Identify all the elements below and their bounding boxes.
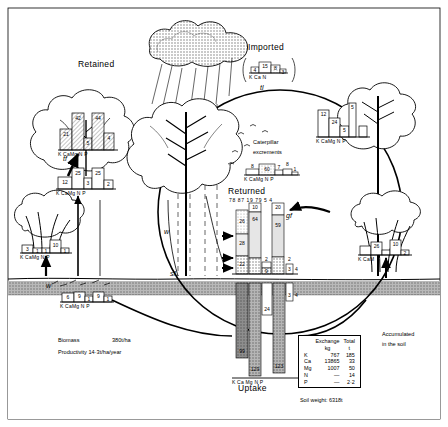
canopy-retained-axis: K CaMg N P — [58, 151, 88, 157]
th-exchange: Exchange — [314, 338, 342, 345]
uptake-value-mg: 24 — [262, 306, 272, 312]
nutrient-cycle-illustration — [0, 0, 448, 427]
shrub-right-axis: K CaM — [358, 256, 374, 262]
label-accumulated-line2: in the soil — [382, 342, 406, 348]
trunk-retained-value-n: 25 — [92, 170, 104, 176]
uptake-value-n: 123 — [273, 363, 285, 369]
canopy-retained-value-k: 21 — [60, 131, 72, 137]
returned-seg-9: 9 — [262, 268, 271, 274]
row-total-n: 14 — [341, 372, 356, 379]
label-uptake: Uptake — [238, 384, 267, 393]
caterpillar-value-mg: 7 — [275, 164, 283, 170]
label-retained: Retained — [78, 60, 114, 69]
uptake-value-k: 99 — [236, 348, 248, 354]
uptake-value-p: 3 — [286, 292, 293, 298]
shrub-right-value-mg: 2 — [401, 250, 409, 256]
shrub-right — [351, 191, 420, 278]
returned-seg-4: 4 — [293, 266, 300, 272]
label-w-left: w — [46, 282, 51, 289]
table-row: N — 14 — [302, 372, 357, 379]
table-header-row: Exchange Total — [302, 338, 357, 345]
shrub-left — [15, 190, 85, 276]
trunk-retained-value-k: 12 — [58, 179, 72, 185]
litter-left-value-k: 6 — [62, 294, 74, 300]
trunk-retained-value-mg: 3 — [84, 180, 92, 186]
row-element-ca: Ca — [302, 358, 314, 365]
tree-center — [127, 99, 242, 276]
label-gf: gf — [286, 212, 292, 219]
diagram-canvas: Retained Imported Returned Uptake Caterp… — [0, 0, 448, 427]
litter-left-value-n: 9 — [93, 293, 104, 299]
returned-seg-59: 59 — [272, 222, 284, 228]
canopy-right-value-mg: 5 — [340, 127, 349, 133]
trunk-retained-axis: K CaMg N P — [56, 190, 86, 196]
row-total-mg: 50 — [341, 365, 356, 372]
shrub-left-value-p: 1 — [61, 248, 69, 254]
uptake-value-extra: 4 — [293, 292, 300, 298]
table-row: Mg 1007 50 — [302, 365, 357, 372]
litter-left-axis: K CaMg N P — [60, 303, 90, 309]
label-excrements: excrements — [253, 150, 282, 156]
row-total-p: 2·2 — [341, 379, 356, 386]
biomass-value: 380t/ha — [112, 338, 131, 344]
canopy-right-value-k: 12 — [318, 111, 329, 117]
shrub-left-value-k: 3 — [22, 246, 33, 252]
label-accumulated-line1: Accumulated — [382, 332, 414, 338]
label-sf: sf — [170, 270, 175, 277]
table-subheader-row: kg t — [302, 345, 357, 352]
rain-cloud-icon — [149, 21, 247, 67]
label-imported: Imported — [248, 43, 284, 52]
row-exchange-p: — — [314, 379, 342, 386]
canopy-retained-value-n: 44 — [92, 115, 104, 121]
returned-seg-2b: 2 — [286, 256, 293, 262]
row-exchange-ca: 13865 — [314, 358, 342, 365]
returned-seg-20: 20 — [272, 204, 284, 210]
row-element-mg: Mg — [302, 365, 314, 372]
trunk-retained-value-ca: 25 — [72, 170, 84, 176]
table-row: P — 2·2 — [302, 379, 357, 386]
canopy-retained-value-ca: 42 — [72, 115, 84, 121]
biomass-label: Biomass — [58, 338, 79, 344]
canopy-right-value-ca: 24 — [329, 119, 340, 125]
caterpillar-axis: K CaMg N P — [244, 176, 274, 182]
shrub-right-value-ca: 10 — [390, 241, 401, 247]
caterpillar-value-k: 8 — [246, 163, 259, 169]
label-tl: tl — [260, 84, 264, 91]
litter-left-value-p: 1 — [104, 296, 112, 302]
shrub-left-axis: K CaMg N P — [20, 254, 50, 260]
label-w-mid: w — [164, 228, 169, 235]
productivity-label: Productivity 14·3t/ha/year — [58, 350, 121, 356]
uptake-value-ca: 129 — [249, 366, 261, 372]
caterpillar-value-ca: 60 — [259, 166, 275, 172]
sh-t: t — [341, 345, 356, 352]
imported-value-p: 3 — [280, 69, 286, 75]
canopy-right-axis: K CaMg N P — [316, 138, 346, 144]
returned-seg-2a: 2 — [262, 256, 271, 262]
imported-axis: K Ca N — [249, 74, 266, 80]
label-caterpillar: Caterpillar — [253, 140, 279, 146]
shrub-right-value-k: 26 — [371, 243, 382, 249]
imported-value-n: 8 — [271, 65, 280, 71]
row-total-k: 185 — [341, 352, 356, 359]
litter-left-value-ca: 9 — [74, 293, 85, 299]
imported-value-ca: 15 — [259, 63, 271, 69]
shrub-left-value-n: 10 — [50, 242, 61, 248]
caterpillar-value-p: 1 — [292, 166, 298, 172]
returned-seg-3: 3 — [286, 266, 293, 272]
returned-seg-10: 10 — [249, 204, 261, 210]
row-element-k: K — [302, 352, 314, 359]
th-blank — [302, 338, 314, 345]
canopy-retained-value-p: 4 — [104, 135, 114, 141]
soil-weight-label: Soil weight: 6318t — [300, 398, 343, 403]
canopy-right-value-n: 5 — [348, 104, 357, 110]
returned-seg-28: 28 — [236, 240, 248, 246]
row-element-p: P — [302, 379, 314, 386]
returned-seg-26: 26 — [236, 218, 248, 224]
sh-blank — [302, 345, 314, 352]
th-total: Total — [341, 338, 356, 345]
returned-seg-22: 22 — [236, 261, 248, 267]
returned-values-row: 78 87 19 79 5 4 — [229, 198, 273, 203]
table-row: Ca 13865 33 — [302, 358, 357, 365]
canopy-retained-value-mg: 5 — [84, 140, 92, 146]
sh-kg: kg — [314, 345, 342, 352]
